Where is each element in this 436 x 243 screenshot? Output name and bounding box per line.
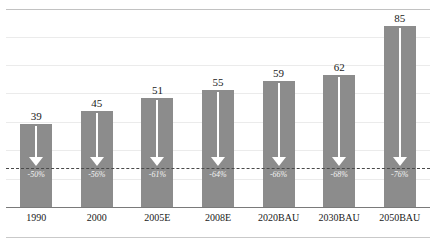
reduction-arrow-head: [332, 157, 346, 166]
bar-chart: 39-50%45-56%51-61%55-64%59-66%62-68%85-7…: [0, 0, 436, 243]
bar-value-label: 51: [135, 84, 179, 96]
bar-group: 55-64%: [196, 0, 240, 207]
reduction-arrow-shaft: [156, 100, 158, 157]
bar-value-label: 59: [257, 67, 301, 79]
category-label: 2020BAU: [247, 212, 311, 224]
category-label: 2005E: [125, 212, 189, 224]
category-label: 1990: [4, 212, 68, 224]
category-label: 2050BAU: [368, 212, 432, 224]
category-label: 2000: [65, 212, 129, 224]
bar-value-label: 45: [75, 97, 119, 109]
reduction-arrow-shaft: [96, 113, 98, 157]
reduction-percent-label: -61%: [135, 170, 179, 179]
reduction-percent-label: -66%: [257, 170, 301, 179]
bar-group: 45-56%: [75, 0, 119, 207]
bar-group: 51-61%: [135, 0, 179, 207]
bar-value-label: 62: [317, 61, 361, 73]
bar-group: 85-76%: [378, 0, 422, 207]
bar-group: 62-68%: [317, 0, 361, 207]
reduction-percent-label: -64%: [196, 170, 240, 179]
reduction-percent-label: -68%: [317, 170, 361, 179]
reduction-arrow-shaft: [399, 28, 401, 157]
plot-area: 39-50%45-56%51-61%55-64%59-66%62-68%85-7…: [0, 0, 436, 207]
reduction-arrow-shaft: [217, 92, 219, 157]
reduction-arrow-shaft: [35, 126, 37, 157]
bar-value-label: 55: [196, 76, 240, 88]
reduction-arrow-shaft: [338, 77, 340, 157]
bottom-border: [6, 237, 430, 238]
x-axis-line: [6, 207, 430, 208]
bar-value-label: 85: [378, 12, 422, 24]
reduction-arrow-head: [393, 157, 407, 166]
bar-group: 59-66%: [257, 0, 301, 207]
reference-line: [6, 168, 430, 169]
reduction-arrow-head: [211, 157, 225, 166]
category-label: 2030BAU: [307, 212, 371, 224]
reduction-percent-label: -56%: [75, 170, 119, 179]
reduction-arrow-shaft: [278, 83, 280, 157]
reduction-arrow-head: [150, 157, 164, 166]
bar-group: 39-50%: [14, 0, 58, 207]
reduction-arrow-head: [29, 157, 43, 166]
reduction-arrow-head: [90, 157, 104, 166]
bar-value-label: 39: [14, 110, 58, 122]
category-label: 2008E: [186, 212, 250, 224]
reduction-percent-label: -50%: [14, 170, 58, 179]
reduction-percent-label: -76%: [378, 170, 422, 179]
reduction-arrow-head: [272, 157, 286, 166]
